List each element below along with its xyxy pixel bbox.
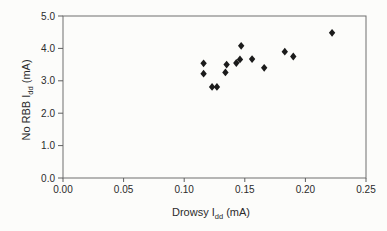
x-tick-label: 0.20 [296,184,316,195]
x-tick-label: 0.05 [114,184,134,195]
y-axis-label-text: No RBB I [20,95,32,141]
x-tick-label: 0.15 [235,184,255,195]
x-tick-label: 0.25 [356,184,376,195]
y-tick-label: 0.0 [41,173,55,184]
y-tick-label: 4.0 [41,43,55,54]
data-point [200,59,206,67]
data-point [214,83,220,91]
data-point [238,42,244,50]
data-point [261,64,267,72]
plot-area [63,16,366,178]
x-axis-ticks: 0.000.050.100.150.200.25 [53,178,376,195]
y-tick-label: 2.0 [41,108,55,119]
data-points [200,29,335,91]
data-point [223,61,229,69]
data-point [200,70,206,78]
x-axis-label-unit: (mA) [223,206,250,218]
y-axis-label-unit: (mA) [20,59,32,86]
x-axis-label-subscript: dd [215,212,223,221]
data-point [329,29,335,37]
data-point [249,55,255,63]
x-axis-label: Drowsy Idd (mA) [172,206,250,221]
x-axis-label-text: Drowsy I [172,206,215,218]
data-point [290,53,296,61]
y-axis-label: No RBB Idd (mA) [20,59,35,140]
scatter-plot: 0.000.050.100.150.200.25 0.01.02.03.04.0… [0,0,387,231]
data-point [222,68,228,76]
data-point [282,48,288,56]
y-axis-ticks: 0.01.02.03.04.05.0 [41,11,63,184]
y-axis-label-subscript: dd [26,86,35,94]
scatter-chart-figure: 0.000.050.100.150.200.25 0.01.02.03.04.0… [0,0,387,231]
x-tick-label: 0.10 [174,184,194,195]
y-tick-label: 5.0 [41,11,55,22]
x-tick-label: 0.00 [53,184,73,195]
y-tick-label: 3.0 [41,75,55,86]
y-tick-label: 1.0 [41,140,55,151]
